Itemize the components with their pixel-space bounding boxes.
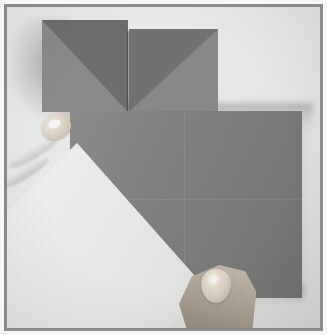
paper-flap-seam bbox=[127, 31, 129, 113]
flap-top-left-shading bbox=[42, 20, 128, 112]
flap-top-right-shading bbox=[129, 29, 218, 112]
photograph bbox=[7, 7, 320, 328]
paper-flap-top-left bbox=[42, 20, 128, 112]
paper-flap-top-right bbox=[129, 29, 218, 112]
hand-bottom-thumb bbox=[179, 265, 271, 328]
hand-left-thumb bbox=[7, 103, 97, 229]
figure-frame: Two hands holding a square sheet of grey… bbox=[0, 0, 327, 335]
hand-bottom-thumbnail-highlight bbox=[208, 275, 219, 284]
